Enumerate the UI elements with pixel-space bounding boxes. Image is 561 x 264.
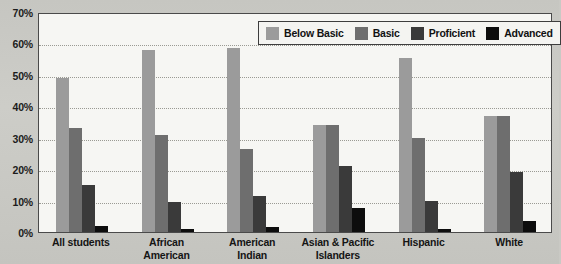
x-axis-tick-label: Asian & PacificIslanders xyxy=(295,236,381,261)
bar xyxy=(313,125,326,232)
bar xyxy=(82,185,95,232)
y-axis-tick-label: 40% xyxy=(13,101,33,113)
bar xyxy=(69,128,82,232)
legend-swatch-icon xyxy=(486,27,499,40)
bar xyxy=(227,48,240,232)
y-axis: 0%10%20%30%40%50%60%70% xyxy=(0,0,36,264)
legend-label: Advanced xyxy=(504,27,553,39)
y-axis-tick-label: 0% xyxy=(18,227,33,239)
x-axis-label-line: American xyxy=(209,236,295,249)
bar xyxy=(412,138,425,232)
legend-swatch-icon xyxy=(266,27,279,40)
y-axis-tick-label: 50% xyxy=(13,70,33,82)
x-axis-label-line: All students xyxy=(38,236,124,249)
x-axis-label-line: African xyxy=(124,236,210,249)
bar-group xyxy=(399,14,451,232)
x-axis-tick-label: All students xyxy=(38,236,124,249)
legend-label: Basic xyxy=(373,27,400,39)
bar xyxy=(339,166,352,232)
bar xyxy=(181,229,194,232)
y-axis-tick-label: 70% xyxy=(13,7,33,19)
x-axis-label-line: Hispanic xyxy=(381,236,467,249)
bar xyxy=(240,149,253,232)
bar xyxy=(155,135,168,232)
bar xyxy=(266,227,279,232)
x-axis-tick-label: AfricanAmerican xyxy=(124,236,210,261)
bar xyxy=(253,196,266,232)
legend-item[interactable]: Advanced xyxy=(486,27,553,40)
bar-group xyxy=(142,14,194,232)
legend-item[interactable]: Basic xyxy=(355,27,400,40)
x-axis: All studentsAfricanAmericanAmericanIndia… xyxy=(38,236,552,264)
bar-group xyxy=(227,14,279,232)
bar xyxy=(326,125,339,232)
bar xyxy=(142,50,155,232)
x-axis-label-line: Indian xyxy=(209,249,295,262)
legend-label: Proficient xyxy=(429,27,475,39)
bar-group xyxy=(313,14,365,232)
bar xyxy=(56,78,69,232)
bar-groups xyxy=(39,14,551,232)
bar-group xyxy=(484,14,536,232)
y-axis-tick-label: 20% xyxy=(13,164,33,176)
y-axis-tick-label: 10% xyxy=(13,196,33,208)
legend-item[interactable]: Proficient xyxy=(411,27,475,40)
x-axis-tick-label: Hispanic xyxy=(381,236,467,249)
y-axis-tick-label: 60% xyxy=(13,38,33,50)
legend-label: Below Basic xyxy=(284,27,344,39)
bar xyxy=(399,58,412,232)
plot-area xyxy=(38,13,552,233)
bar xyxy=(438,229,451,232)
bar xyxy=(497,116,510,232)
bar xyxy=(95,226,108,232)
bar xyxy=(425,201,438,232)
legend-swatch-icon xyxy=(411,27,424,40)
x-axis-label-line: American xyxy=(124,249,210,262)
x-axis-label-line: White xyxy=(466,236,552,249)
x-axis-label-line: Islanders xyxy=(295,249,381,262)
y-axis-tick-label: 30% xyxy=(13,133,33,145)
x-axis-tick-label: White xyxy=(466,236,552,249)
x-axis-tick-label: AmericanIndian xyxy=(209,236,295,261)
legend-item[interactable]: Below Basic xyxy=(266,27,344,40)
bar xyxy=(352,208,365,232)
bar xyxy=(523,221,536,232)
bar xyxy=(168,202,181,232)
legend: Below BasicBasicProficientAdvanced xyxy=(258,21,561,45)
x-axis-label-line: Asian & Pacific xyxy=(295,236,381,249)
legend-swatch-icon xyxy=(355,27,368,40)
bar-group xyxy=(56,14,108,232)
bar xyxy=(484,116,497,232)
bar xyxy=(510,172,523,232)
